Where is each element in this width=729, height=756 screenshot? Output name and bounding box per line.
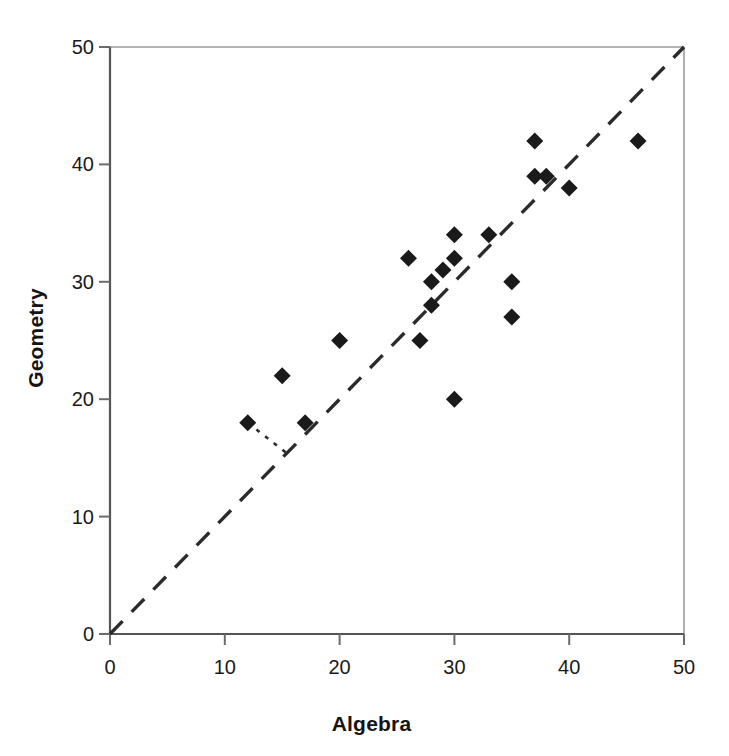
data-point-marker bbox=[423, 273, 440, 290]
identity-reference-line bbox=[110, 47, 684, 634]
data-point-marker bbox=[434, 262, 451, 279]
data-point-marker bbox=[446, 226, 463, 243]
scatter-plot-figure: 01020304050 01020304050 Geometry Algebra bbox=[0, 0, 729, 756]
residual-connector-line bbox=[248, 423, 287, 454]
x-tick-label: 0 bbox=[104, 656, 115, 679]
data-point-marker bbox=[561, 179, 578, 196]
y-axis-title-wrap: Geometry bbox=[14, 0, 58, 756]
x-tick-label: 50 bbox=[673, 656, 695, 679]
data-point-marker bbox=[239, 414, 256, 431]
data-point-marker bbox=[331, 332, 348, 349]
x-axis-ticks bbox=[110, 634, 684, 645]
x-tick-label: 20 bbox=[328, 656, 350, 679]
data-point-marker bbox=[503, 309, 520, 326]
x-tick-label: 40 bbox=[558, 656, 580, 679]
data-point-marker bbox=[503, 273, 520, 290]
plot-canvas bbox=[0, 0, 729, 756]
data-point-marker bbox=[630, 132, 647, 149]
x-tick-label: 30 bbox=[443, 656, 465, 679]
y-axis-title: Geometry bbox=[24, 288, 48, 388]
data-point-marker bbox=[446, 250, 463, 267]
data-point-marker bbox=[480, 226, 497, 243]
data-point-marker bbox=[526, 132, 543, 149]
x-tick-label: 10 bbox=[214, 656, 236, 679]
x-axis-title: Algebra bbox=[318, 712, 412, 735]
data-point-marker bbox=[446, 391, 463, 408]
data-point-marker bbox=[400, 250, 417, 267]
y-axis-ticks bbox=[99, 47, 110, 634]
x-axis-title-wrap: Algebra bbox=[0, 712, 729, 736]
data-point-group bbox=[239, 132, 646, 431]
data-point-marker bbox=[411, 332, 428, 349]
data-point-marker bbox=[274, 367, 291, 384]
